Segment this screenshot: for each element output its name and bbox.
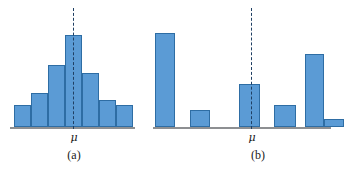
panel-b: μ (b) xyxy=(150,0,335,171)
panel-a: μ (a) xyxy=(0,0,160,171)
panel-a-bar-3 xyxy=(48,65,65,127)
panel-b-bar-1 xyxy=(155,33,175,127)
panel-a-mu-label: μ xyxy=(64,131,84,144)
panel-a-plot xyxy=(0,0,160,140)
panel-b-bar-3 xyxy=(239,84,260,127)
panel-a-bar-7 xyxy=(116,105,133,127)
panel-b-caption: (b) xyxy=(238,148,278,163)
panel-a-bar-6 xyxy=(99,100,116,127)
panel-a-caption: (a) xyxy=(54,148,94,163)
panel-b-axis xyxy=(153,127,331,129)
panel-a-bar-5 xyxy=(82,73,99,127)
panel-b-bar-2 xyxy=(190,110,210,127)
panel-b-bar-5 xyxy=(305,54,324,127)
panel-b-plot xyxy=(150,0,335,140)
panel-a-mu-line xyxy=(73,8,74,129)
panel-b-mu-line xyxy=(251,8,252,129)
panel-b-bar-4 xyxy=(274,105,296,127)
panel-b-bar-6 xyxy=(324,119,344,127)
panel-a-bar-1 xyxy=(14,105,31,127)
panel-a-bar-2 xyxy=(31,93,48,127)
panel-b-mu-label: μ xyxy=(242,131,262,144)
